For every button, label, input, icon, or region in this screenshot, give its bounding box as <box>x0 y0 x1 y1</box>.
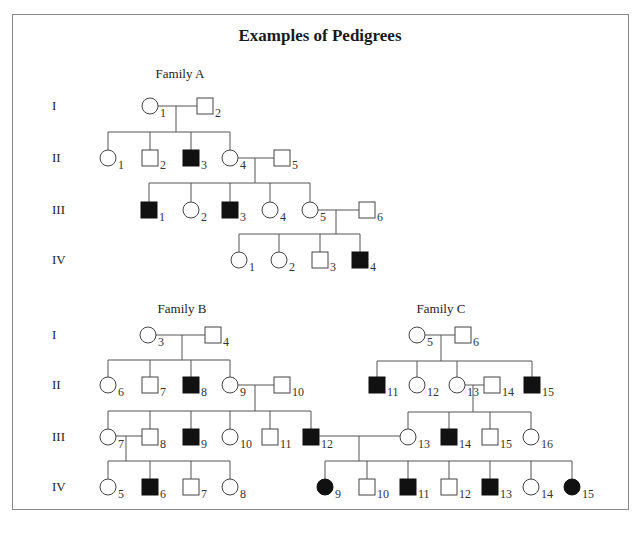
individual-number: 10 <box>240 437 252 451</box>
individual-number: 3 <box>240 210 246 224</box>
unaffected-male-square-icon <box>274 377 290 393</box>
individual-number: 7 <box>118 437 124 451</box>
individual-number: 10 <box>292 385 304 399</box>
individual-number: 2 <box>215 106 221 120</box>
family-b: Family BIIIIIIIV346789107891011125678 <box>52 301 333 501</box>
family-a: Family AIIIIIIIV12123451234561234 <box>52 66 383 274</box>
affected-male-square-icon <box>352 252 368 268</box>
affected-male-square-icon <box>141 202 157 218</box>
unaffected-female-circle-icon <box>100 377 116 393</box>
affected-male-square-icon <box>183 377 199 393</box>
individual-number: 4 <box>223 335 229 349</box>
individual-number: 6 <box>160 487 166 501</box>
affected-male-square-icon <box>441 429 457 445</box>
individual-number: 9 <box>335 487 341 501</box>
individual-number: 14 <box>502 385 514 399</box>
family-label: Family A <box>156 66 205 81</box>
family-label: Family B <box>158 301 207 316</box>
unaffected-male-square-icon <box>183 479 199 495</box>
generation-label: I <box>52 98 56 113</box>
individual-number: 8 <box>201 385 207 399</box>
individual-number: 4 <box>370 260 376 274</box>
generation-label: III <box>52 202 65 217</box>
unaffected-male-square-icon <box>142 377 158 393</box>
affected-male-square-icon <box>142 479 158 495</box>
individual-number: 11 <box>387 385 399 399</box>
unaffected-male-square-icon <box>484 377 500 393</box>
individual-number: 5 <box>320 210 326 224</box>
pedigree-figure: Examples of Pedigrees Family AIIIIIIIV12… <box>0 0 644 533</box>
unaffected-male-square-icon <box>455 327 471 343</box>
individual-number: 9 <box>240 385 246 399</box>
unaffected-male-square-icon <box>142 429 158 445</box>
individual-number: 4 <box>280 210 286 224</box>
individual-number: 15 <box>542 385 554 399</box>
individual-number: 8 <box>160 437 166 451</box>
individual-number: 1 <box>249 260 255 274</box>
unaffected-male-square-icon <box>441 479 457 495</box>
unaffected-male-square-icon <box>482 429 498 445</box>
unaffected-female-circle-icon <box>183 202 199 218</box>
individual-number: 11 <box>418 487 430 501</box>
unaffected-male-square-icon <box>274 150 290 166</box>
generation-label: IV <box>52 479 66 494</box>
unaffected-female-circle-icon <box>302 202 318 218</box>
individual-number: 3 <box>330 260 336 274</box>
individual-number: 3 <box>201 158 207 172</box>
affected-female-circle-icon <box>317 479 333 495</box>
unaffected-female-circle-icon <box>231 252 247 268</box>
generation-label: IV <box>52 252 66 267</box>
unaffected-female-circle-icon <box>100 429 116 445</box>
generation-label: III <box>52 429 65 444</box>
affected-male-square-icon <box>183 150 199 166</box>
individual-number: 5 <box>427 335 433 349</box>
unaffected-female-circle-icon <box>100 479 116 495</box>
unaffected-male-square-icon <box>142 150 158 166</box>
affected-male-square-icon <box>482 479 498 495</box>
figure-title: Examples of Pedigrees <box>238 26 401 45</box>
individual-number: 2 <box>201 210 207 224</box>
individual-number: 5 <box>118 487 124 501</box>
individual-number: 13 <box>500 487 512 501</box>
individual-number: 7 <box>160 385 166 399</box>
individual-number: 6 <box>377 210 383 224</box>
unaffected-female-circle-icon <box>523 479 539 495</box>
individual-number: 1 <box>160 106 166 120</box>
unaffected-female-circle-icon <box>449 377 465 393</box>
affected-male-square-icon <box>183 429 199 445</box>
unaffected-male-square-icon <box>205 327 221 343</box>
generation-label: II <box>52 150 61 165</box>
unaffected-female-circle-icon <box>142 98 158 114</box>
affected-male-square-icon <box>524 377 540 393</box>
unaffected-male-square-icon <box>312 252 328 268</box>
individual-number: 8 <box>240 487 246 501</box>
unaffected-male-square-icon <box>359 479 375 495</box>
individual-number: 1 <box>159 210 165 224</box>
unaffected-female-circle-icon <box>262 202 278 218</box>
unaffected-female-circle-icon <box>409 377 425 393</box>
unaffected-female-circle-icon <box>100 150 116 166</box>
unaffected-female-circle-icon <box>271 252 287 268</box>
individual-number: 3 <box>158 335 164 349</box>
individual-number: 12 <box>321 437 333 451</box>
unaffected-female-circle-icon <box>400 429 416 445</box>
unaffected-female-circle-icon <box>222 429 238 445</box>
affected-male-square-icon <box>369 377 385 393</box>
unaffected-male-square-icon <box>262 429 278 445</box>
affected-male-square-icon <box>222 202 238 218</box>
affected-male-square-icon <box>303 429 319 445</box>
individual-number: 1 <box>118 158 124 172</box>
individual-number: 10 <box>377 487 389 501</box>
unaffected-female-circle-icon <box>222 150 238 166</box>
family-label: Family C <box>417 301 466 316</box>
unaffected-female-circle-icon <box>409 327 425 343</box>
individual-number: 9 <box>201 437 207 451</box>
unaffected-female-circle-icon <box>222 377 238 393</box>
affected-male-square-icon <box>400 479 416 495</box>
affected-female-circle-icon <box>564 479 580 495</box>
unaffected-female-circle-icon <box>222 479 238 495</box>
individual-number: 6 <box>473 335 479 349</box>
generation-label: I <box>52 327 56 342</box>
unaffected-female-circle-icon <box>523 429 539 445</box>
individual-number: 13 <box>467 385 479 399</box>
